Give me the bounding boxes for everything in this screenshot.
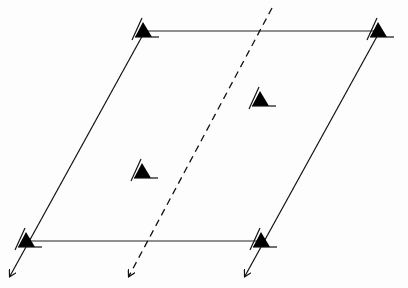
diagram-canvas xyxy=(0,0,408,288)
triangle-marker-icon xyxy=(367,18,394,40)
dashed-line xyxy=(129,8,272,276)
lattice-diagram xyxy=(0,0,408,288)
markers xyxy=(15,18,394,250)
triangle-marker-icon xyxy=(249,87,276,109)
triangle-marker-icon xyxy=(250,228,277,250)
parallelogram xyxy=(10,31,380,276)
triangle-marker-icon xyxy=(131,159,158,181)
triangle-marker-icon xyxy=(132,18,159,40)
triangle-marker-icon xyxy=(15,228,42,250)
